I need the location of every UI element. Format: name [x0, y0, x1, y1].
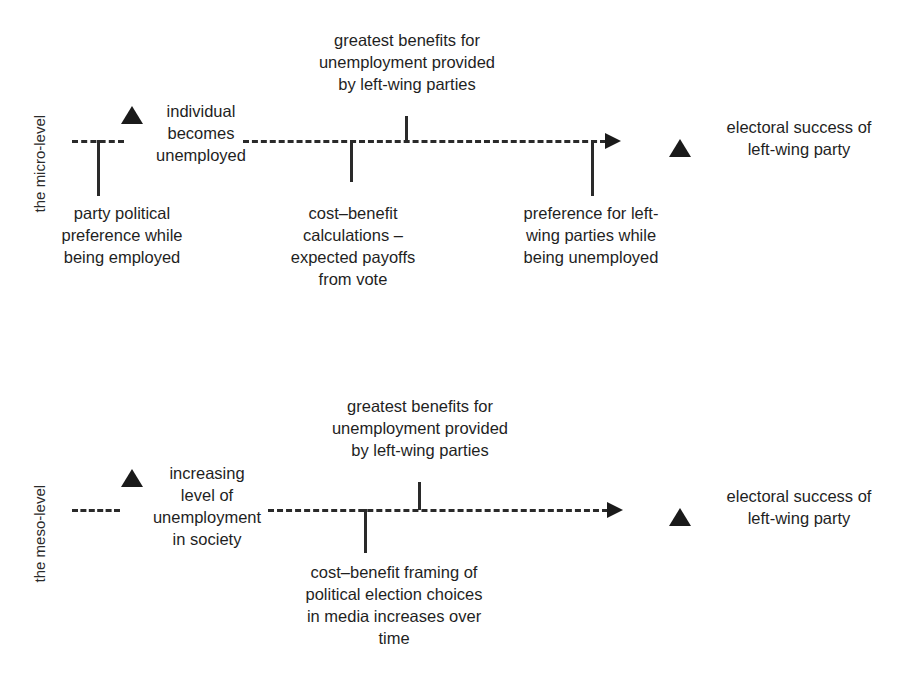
annotation-micro-below-1: party political preference while being e…	[32, 203, 212, 269]
dashed-line-meso-left	[72, 509, 120, 512]
tick-micro-1	[97, 140, 100, 196]
node-micro-end-label: electoral success of left-wing party	[694, 117, 904, 161]
triangle-marker-icon-micro-start	[121, 106, 143, 124]
node-meso-end-label: electoral success of left-wing party	[694, 486, 904, 530]
node-micro-start-label: individual becomes unemployed	[145, 101, 257, 167]
tick-meso-2	[418, 482, 421, 510]
annotation-meso-above: greatest benefits for unemployment provi…	[296, 396, 544, 462]
triangle-marker-icon-meso-end	[669, 508, 691, 526]
tick-micro-2	[350, 140, 353, 182]
annotation-meso-below-1: cost–benefit framing of political electi…	[250, 562, 538, 650]
annotation-micro-above: greatest benefits for unemployment provi…	[283, 30, 531, 96]
level-label-meso: the meso-level	[31, 449, 48, 619]
triangle-marker-icon-micro-end	[669, 139, 691, 157]
arrowhead-icon-meso	[607, 502, 623, 518]
triangle-marker-icon-meso-start	[121, 469, 143, 487]
tick-micro-3	[405, 116, 408, 141]
annotation-micro-below-2: cost–benefit calculations – expected pay…	[270, 203, 436, 291]
node-meso-start-label: increasing level of unemployment in soci…	[143, 463, 271, 551]
tick-micro-4	[591, 140, 594, 196]
annotation-micro-below-3: preference for left- wing parties while …	[502, 203, 680, 269]
tick-meso-1	[364, 509, 367, 553]
dashed-line-meso-main	[268, 509, 608, 512]
diagram-canvas: the micro-level individual becomes unemp…	[0, 0, 910, 685]
arrowhead-icon-micro	[605, 133, 621, 149]
dashed-line-micro-main	[243, 140, 606, 143]
